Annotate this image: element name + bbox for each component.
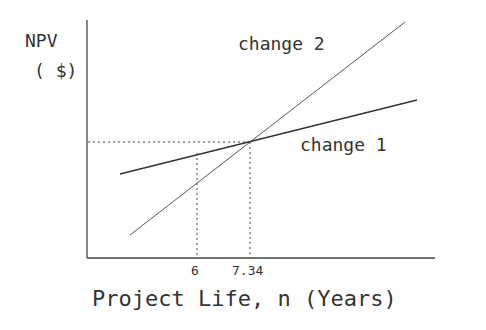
x-tick-7-34: 7.34 xyxy=(232,263,263,278)
x-axis-label: Project Life, n (Years) xyxy=(92,286,397,311)
y-axis-label-unit: ( $) xyxy=(34,60,77,81)
series-label-change-2: change 2 xyxy=(238,33,325,54)
npv-chart: NPV ( $) change 2 change 1 6 7.34 Projec… xyxy=(0,0,486,330)
series-label-change-1: change 1 xyxy=(300,134,387,155)
x-tick-6: 6 xyxy=(191,263,199,278)
y-axis-label-npv: NPV xyxy=(25,30,58,51)
